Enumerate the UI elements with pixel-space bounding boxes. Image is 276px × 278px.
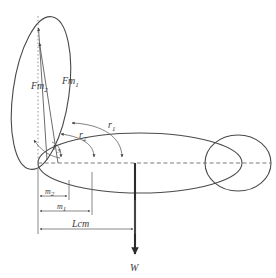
reference-lines-group — [38, 16, 271, 168]
label-weight: W — [130, 262, 140, 273]
force-vector-fm2 — [39, 28, 48, 160]
diagram-canvas: Fm2 Fm1 r1 r2 r3 m2 m1 Lcm W — [0, 0, 276, 278]
biomechanics-diagram: Fm2 Fm1 r1 r2 r3 m2 m1 Lcm W — [0, 0, 276, 278]
segment-ellipse — [3, 13, 80, 173]
label-moment-arm-m1: m1 — [57, 202, 66, 213]
label-radius-r1: r1 — [108, 119, 115, 133]
label-moment-arm-m2: m2 — [45, 187, 55, 198]
label-center-of-mass: Lcm — [71, 218, 89, 229]
label-radius-r3: r3 — [53, 141, 61, 155]
limb-outline-group — [3, 13, 271, 193]
label-radius-r2: r2 — [79, 129, 87, 143]
labels-group: Fm2 Fm1 r1 r2 r3 m2 m1 Lcm W — [30, 75, 140, 273]
